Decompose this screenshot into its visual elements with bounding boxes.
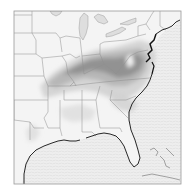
map-figure: [0, 0, 193, 196]
